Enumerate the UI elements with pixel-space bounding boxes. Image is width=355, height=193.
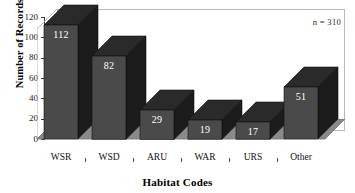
y-tick-label: 60 <box>14 74 38 83</box>
bar-3d-shape <box>44 5 98 139</box>
x-tick-label: Other <box>271 152 331 162</box>
bar-value-label: 17 <box>236 127 270 137</box>
bar-front-face <box>44 25 78 139</box>
bar: 82 <box>92 36 126 139</box>
sample-size-annotation: n = 310 <box>313 17 341 27</box>
bar-3d-shape <box>284 67 338 139</box>
bar-value-label: 19 <box>188 125 222 135</box>
x-axis-title: Habitat Codes <box>0 176 355 188</box>
bar: 19 <box>188 100 222 139</box>
bar-3d-shape <box>92 36 146 139</box>
plot-area: 1128229191751 <box>37 9 345 149</box>
bar-series: 1128229191751 <box>37 9 345 149</box>
bar-value-label: 29 <box>140 115 174 125</box>
bar-value-label: 112 <box>44 30 78 40</box>
bar: 17 <box>236 102 270 139</box>
bar: 112 <box>44 5 78 139</box>
bar-chart: Number of Records 020406080100120 112822… <box>0 0 355 193</box>
y-tick-label: 120 <box>14 13 38 22</box>
y-tick-label: 40 <box>14 94 38 103</box>
bar: 29 <box>140 90 174 139</box>
bar: 51 <box>284 67 318 139</box>
y-axis-tick-labels: 020406080100120 <box>8 0 38 193</box>
bar-value-label: 82 <box>92 61 126 71</box>
y-tick-label: 80 <box>14 53 38 62</box>
y-tick-label: 0 <box>14 135 38 144</box>
y-tick-label: 100 <box>14 33 38 42</box>
bar-value-label: 51 <box>284 92 318 102</box>
y-tick-label: 20 <box>14 114 38 123</box>
